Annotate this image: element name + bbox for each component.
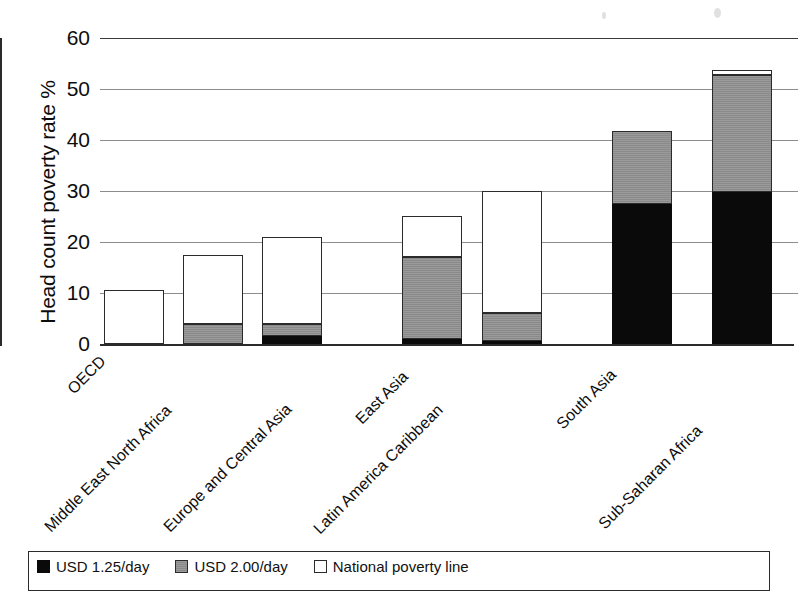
bar-segment-usd-2-00-day bbox=[262, 324, 322, 336]
legend-item-usd-1-25-day: USD 1.25/day bbox=[37, 558, 149, 575]
bar-segment-national-poverty-line bbox=[712, 70, 772, 75]
bar-segment-usd-1-25-day bbox=[712, 192, 772, 344]
x-axis-line bbox=[100, 344, 794, 346]
y-axis-line bbox=[0, 38, 2, 346]
x-category-label-europe-and-central-asia: Europe and Central Asia bbox=[160, 400, 295, 535]
bar-segment-national-poverty-line bbox=[402, 216, 462, 257]
y-tick-label-0: 0 bbox=[30, 333, 90, 354]
legend-item-national-poverty-line: National poverty line bbox=[314, 558, 469, 575]
bar-segment-usd-2-00-day bbox=[402, 257, 462, 339]
scan-speck bbox=[714, 8, 721, 18]
gridline-40 bbox=[100, 140, 798, 141]
scan-speck bbox=[602, 12, 606, 19]
bar-segment-usd-1-25-day bbox=[482, 341, 542, 344]
chart-legend: USD 1.25/day USD 2.00/day National pover… bbox=[28, 551, 770, 591]
y-tick-label-20: 20 bbox=[30, 231, 90, 252]
x-category-label-latin-america-caribbean: Latin America Caribbean bbox=[310, 401, 447, 538]
legend-label: National poverty line bbox=[333, 558, 469, 575]
x-category-label-sub-saharan-africa: Sub-Saharan Africa bbox=[595, 422, 706, 533]
bar-segment-usd-2-00-day bbox=[183, 324, 243, 344]
gridline-30 bbox=[100, 191, 798, 192]
legend-label: USD 1.25/day bbox=[56, 558, 149, 575]
y-tick-label-40: 40 bbox=[30, 129, 90, 150]
bar-segment-usd-1-25-day bbox=[402, 339, 462, 344]
bar-segment-usd-1-25-day bbox=[262, 336, 322, 344]
legend-swatch-white-icon bbox=[314, 560, 327, 573]
y-tick-label-10: 10 bbox=[30, 282, 90, 303]
x-category-label-oecd: OECD bbox=[64, 352, 109, 397]
bar-segment-usd-1-25-day bbox=[612, 204, 672, 344]
bar-segment-national-poverty-line bbox=[262, 237, 322, 324]
y-tick-label-50: 50 bbox=[30, 78, 90, 99]
plot-area bbox=[100, 38, 798, 344]
x-category-label-middle-east-north-africa: Middle East North Africa bbox=[41, 402, 175, 536]
legend-label: USD 2.00/day bbox=[194, 558, 287, 575]
legend-item-usd-2-00-day: USD 2.00/day bbox=[175, 558, 287, 575]
bar-segment-national-poverty-line bbox=[183, 255, 243, 324]
bar-segment-national-poverty-line bbox=[482, 191, 542, 313]
x-category-label-south-asia: South Asia bbox=[553, 366, 620, 433]
bar-segment-usd-2-00-day bbox=[612, 131, 672, 204]
bar-segment-usd-2-00-day bbox=[712, 75, 772, 192]
gridline-50 bbox=[100, 89, 798, 90]
y-tick-label-30: 30 bbox=[30, 180, 90, 201]
y-tick-label-60: 60 bbox=[30, 27, 90, 48]
bar-segment-national-poverty-line bbox=[104, 290, 164, 344]
gridline-60 bbox=[100, 38, 798, 39]
legend-swatch-black-icon bbox=[37, 560, 50, 573]
legend-swatch-gray-icon bbox=[175, 560, 188, 573]
x-category-label-east-asia: East Asia bbox=[352, 368, 412, 428]
bar-segment-usd-2-00-day bbox=[482, 313, 542, 341]
